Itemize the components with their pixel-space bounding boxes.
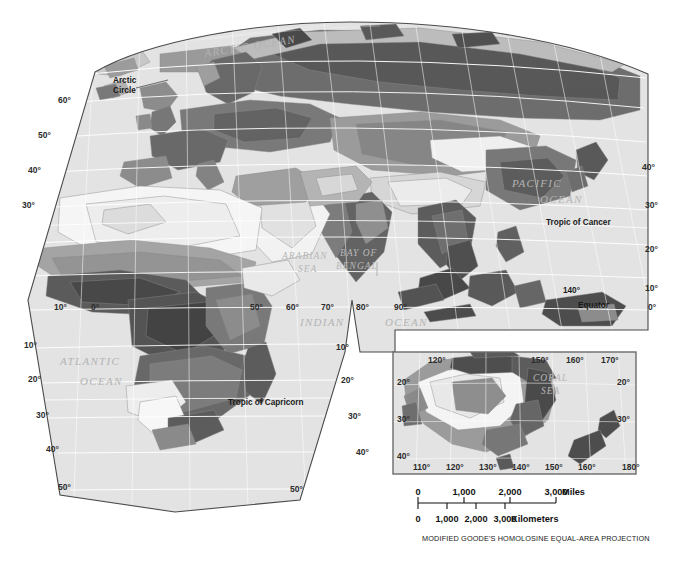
scale-miles-tick: 0 [415, 487, 420, 497]
annotation-label: 140° [563, 286, 580, 295]
longitude-label: 70° [321, 302, 334, 312]
inset-longitude-label: 110° [413, 462, 431, 472]
inset-longitude-label: 140° [512, 462, 530, 472]
latitude-label: 40° [356, 447, 369, 457]
ocean-label: ATLANTIC [59, 355, 120, 367]
inset-latitude-label: 40° [397, 451, 410, 461]
australia-inset-map [393, 350, 636, 474]
inset-longitude-label: 130° [479, 462, 497, 472]
ocean-label: ARABIAN [281, 251, 328, 261]
scale-km-tick: 2,000 [465, 514, 488, 524]
longitude-label: 80° [356, 302, 369, 312]
latitude-label: 20° [28, 374, 41, 384]
latitude-label: 20° [341, 375, 354, 385]
annotation-label: Tropic of Cancer [546, 218, 611, 227]
inset-longitude-label: 180° [622, 462, 640, 472]
latitude-label: 40° [46, 444, 59, 454]
ocean-label: SEA [298, 264, 317, 274]
scale-km-tick: 0 [415, 514, 420, 524]
latitude-label: 30° [348, 411, 361, 421]
scale-kilometers-unit: Kilometers [511, 514, 559, 524]
latitude-label: 50° [290, 484, 303, 494]
projection-caption: MODIFIED GOODE'S HOMOLOSINE EQUAL-AREA P… [422, 534, 650, 543]
latitude-label: 0° [648, 302, 657, 312]
ocean-label: BAY OF [340, 248, 377, 258]
inset-latitude-label: 30° [617, 414, 630, 424]
inset-latitude-label: 30° [397, 414, 410, 424]
inset-longitude-label: 150° [545, 462, 563, 472]
latitude-label: 30° [645, 200, 658, 210]
latitude-label: 50° [58, 482, 71, 492]
ocean-label: BENGAL [336, 261, 378, 271]
latitude-label: 30° [36, 410, 49, 420]
longitude-label: 10° [54, 302, 67, 312]
latitude-label: 10° [336, 342, 349, 352]
latitude-label: 50° [38, 130, 51, 140]
ocean-label: INDIAN [299, 316, 344, 328]
longitude-label: 50° [250, 302, 263, 312]
latitude-label: 10° [645, 283, 658, 293]
ocean-label: OCEAN [80, 375, 123, 387]
annotation-label: Circle [113, 86, 136, 95]
longitude-label: 0° [91, 302, 100, 312]
latitude-label: 30° [22, 200, 35, 210]
scale-km-tick: 1,000 [436, 514, 459, 524]
inset-longitude-label: 170° [601, 355, 619, 365]
inset-longitude-label: 150° [531, 355, 549, 365]
latitude-label: 40° [28, 165, 41, 175]
annotation-label: Arctic [113, 76, 137, 85]
latitude-label: 40° [642, 162, 655, 172]
inset-longitude-label: 160° [578, 462, 596, 472]
ocean-label: OCEAN [385, 316, 428, 328]
inset-latitude-label: 20° [397, 377, 410, 387]
inset-latitude-label: 20° [617, 377, 630, 387]
longitude-label: 60° [286, 302, 299, 312]
scale-miles-tick: 1,000 [453, 487, 476, 497]
latitude-label: 60° [58, 95, 71, 105]
annotation-label: Equator [578, 301, 610, 310]
latitude-label: 10° [24, 340, 37, 350]
longitude-label: 90° [394, 302, 407, 312]
ocean-label: PACIFIC [511, 177, 562, 189]
ocean-label: OCEAN [540, 193, 583, 205]
inset-longitude-label: 120° [428, 355, 446, 365]
inset-ocean-label: SEA [541, 386, 560, 396]
map-canvas: ARCTIC OCEANATLANTICOCEANARABIANSEABAY O… [0, 0, 692, 566]
annotation-label: Tropic of Capricorn [228, 398, 304, 407]
scale-miles-unit: Miles [562, 487, 585, 497]
inset-longitude-label: 120° [446, 462, 464, 472]
inset-longitude-label: 160° [566, 355, 584, 365]
scale-miles-tick: 2,000 [499, 487, 522, 497]
inset-ocean-label: CORAL [533, 373, 568, 383]
latitude-label: 20° [645, 244, 658, 254]
